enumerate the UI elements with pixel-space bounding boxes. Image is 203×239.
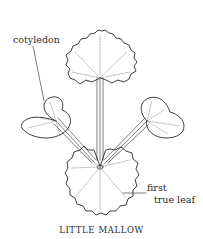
figure-title: LITTLE MALLOW	[0, 226, 203, 235]
stems	[54, 78, 149, 163]
first-true-leaf	[65, 146, 139, 215]
first-true-leaf-label-line2: true leaf	[154, 195, 195, 205]
cotyledon-label: cotyledon	[13, 35, 60, 45]
left-cotyledon	[21, 97, 70, 138]
top-true-leaf	[66, 30, 137, 84]
first-true-leaf-label-line1: first	[147, 183, 167, 193]
right-cotyledon	[141, 97, 184, 138]
cotyledon-leader-line	[33, 46, 44, 101]
